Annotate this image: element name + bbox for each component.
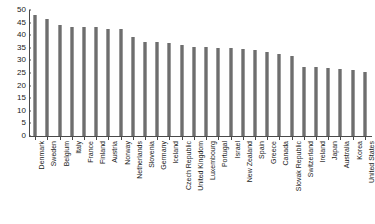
y-tick-mark [29, 123, 31, 124]
x-tick-label: Japan [331, 141, 338, 160]
y-tick-mark [29, 47, 31, 48]
x-tick-mark [84, 137, 85, 140]
x-tick-label: Finland [99, 141, 106, 164]
x-tick-mark [340, 137, 341, 140]
x-tick-label: France [87, 141, 94, 163]
x-tick-mark [292, 137, 293, 140]
x-tick-label: Sweden [50, 141, 57, 166]
x-tick-mark [218, 137, 219, 140]
x-tick-label: Ireland [319, 141, 326, 162]
x-tick-label: New Zealand [246, 141, 253, 182]
x-tick-mark [121, 137, 122, 140]
x-tick-label: United Kingdom [197, 141, 204, 191]
x-tick-label: Norway [124, 141, 131, 165]
y-tick-label: 15 [17, 94, 29, 102]
x-tick-mark [72, 137, 73, 140]
x-tick-mark [279, 137, 280, 140]
y-tick-label: 0 [22, 132, 29, 140]
x-tick-mark [304, 137, 305, 140]
x-tick-label: Iceland [172, 141, 179, 164]
x-tick-label: Germany [160, 141, 167, 170]
y-tick-label: 5 [22, 119, 29, 127]
x-axis-ticks: DenmarkSwedenBelgiumItalyFranceFinlandAu… [29, 137, 371, 224]
x-tick-mark [169, 137, 170, 140]
y-tick-mark [29, 73, 31, 74]
x-tick-mark [206, 137, 207, 140]
x-tick-mark [157, 137, 158, 140]
x-tick-label: Portugal [221, 141, 228, 167]
x-tick-label: Switzerland [307, 141, 314, 177]
y-tick-label: 35 [17, 44, 29, 52]
x-tick-mark [194, 137, 195, 140]
y-tick-label: 50 [17, 6, 29, 14]
x-tick-mark [145, 137, 146, 140]
x-tick-label: Spain [258, 141, 265, 159]
y-tick-label: 10 [17, 107, 29, 115]
x-tick-label: Greece [270, 141, 277, 164]
x-tick-mark [96, 137, 97, 140]
y-tick-label: 45 [17, 19, 29, 27]
x-tick-label: Australia [343, 141, 350, 168]
x-tick-label: Slovak Republic [295, 141, 302, 191]
x-tick-mark [267, 137, 268, 140]
y-tick-mark [29, 98, 31, 99]
x-tick-mark [47, 137, 48, 140]
y-axis-ticks: 05101520253035404550 [29, 10, 371, 136]
y-tick-label: 25 [17, 69, 29, 77]
x-tick-label: Netherlands [136, 141, 143, 179]
y-tick-mark [29, 10, 31, 11]
x-tick-mark [328, 137, 329, 140]
x-tick-label: Czech Republic [185, 141, 192, 190]
x-tick-mark [255, 137, 256, 140]
x-tick-mark [182, 137, 183, 140]
x-tick-label: Austria [111, 141, 118, 163]
y-tick-label: 30 [17, 56, 29, 64]
x-tick-label: Denmark [38, 141, 45, 169]
x-tick-label: Korea [356, 141, 363, 160]
y-tick-label: 40 [17, 31, 29, 39]
x-tick-label: United States [368, 141, 375, 183]
y-tick-mark [29, 60, 31, 61]
x-tick-label: Luxembourg [209, 141, 216, 180]
x-tick-mark [243, 137, 244, 140]
x-tick-label: Slovenia [148, 141, 155, 168]
y-tick-label: 20 [17, 82, 29, 90]
x-tick-mark [60, 137, 61, 140]
x-tick-mark [108, 137, 109, 140]
x-tick-label: Italy [75, 141, 82, 154]
y-tick-mark [29, 110, 31, 111]
x-tick-mark [353, 137, 354, 140]
x-tick-label: Belgium [63, 141, 70, 166]
x-tick-mark [35, 137, 36, 140]
x-tick-mark [133, 137, 134, 140]
y-tick-mark [29, 35, 31, 36]
x-tick-label: Israel [234, 141, 241, 158]
x-tick-mark [316, 137, 317, 140]
x-tick-label: Canada [282, 141, 289, 166]
x-tick-mark [365, 137, 366, 140]
y-tick-mark [29, 22, 31, 23]
x-tick-mark [231, 137, 232, 140]
y-tick-mark [29, 85, 31, 86]
